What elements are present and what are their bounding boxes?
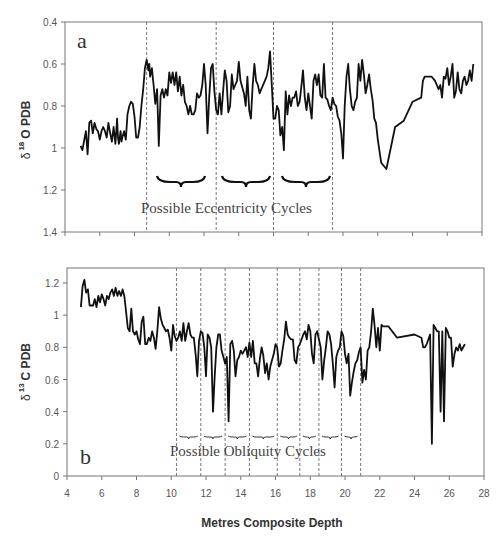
brace-icon [179, 436, 197, 439]
x-tick-label: 26 [444, 488, 456, 499]
x-tick-label: 16 [270, 488, 282, 499]
brace-icon [303, 436, 316, 439]
brace-icon [222, 176, 270, 187]
y-tick-label: 1 [53, 310, 59, 321]
panel-b-annotation: Possible Obliquity Cycles [170, 443, 326, 459]
panel-a-eccentricity-braces [157, 176, 330, 187]
figure: 0.40.60.811.21.4 a Possible Eccentricity… [0, 0, 504, 545]
panel-b-y-axis-title: δ13C PDB [17, 343, 33, 401]
x-tick-label: 14 [235, 488, 247, 499]
panel-a-annotation: Possible Eccentricity Cycles [141, 200, 312, 216]
panel-a-x-axis [65, 232, 482, 236]
y-tick-label: 0.8 [45, 342, 59, 353]
panel-b-carbon-isotope-chart: 00.20.40.60.811.2 4681012141618202224262… [17, 268, 490, 499]
x-tick-label: 24 [409, 488, 421, 499]
y-tick-label: 0.2 [45, 439, 59, 450]
brace-icon [345, 436, 358, 439]
x-axis-title: Metres Composite Depth [201, 516, 342, 530]
panel-b-x-axis: 46810121416182022242628 [64, 476, 490, 499]
y-tick-label: 0.6 [43, 59, 57, 70]
delta-symbol: δ [19, 394, 33, 401]
x-tick-label: 20 [339, 488, 351, 499]
brace-icon [282, 176, 330, 187]
y-tick-label: 0.4 [43, 17, 57, 28]
x-tick-label: 6 [99, 488, 105, 499]
y-tick-label: 0.4 [45, 407, 59, 418]
panel-b-obliquity-braces [179, 436, 357, 439]
y-tick-label: 0 [53, 471, 59, 482]
brace-icon [157, 176, 205, 187]
y-tick-label: 0.8 [43, 101, 57, 112]
y-tick-label: 1.4 [43, 227, 57, 238]
x-tick-label: 12 [200, 488, 212, 499]
panel-a-d18o-line [81, 51, 474, 169]
panel-a-y-axis-title: δ18O PDB [17, 100, 33, 159]
panel-b-y-axis: 00.20.40.60.811.2 [45, 278, 67, 482]
delta-symbol: δ [19, 152, 33, 159]
panel-b-letter: b [80, 444, 91, 469]
svg-text:δ18O PDB: δ18O PDB [17, 100, 33, 159]
brace-icon [252, 436, 274, 439]
x-tick-label: 22 [374, 488, 386, 499]
brace-icon [280, 436, 297, 439]
y-tick-label: 1.2 [45, 278, 59, 289]
svg-text:δ13C PDB: δ13C PDB [17, 343, 33, 401]
x-tick-label: 8 [134, 488, 140, 499]
brace-icon [322, 436, 339, 439]
x-tick-label: 10 [166, 488, 178, 499]
x-tick-label: 28 [478, 488, 490, 499]
panel-a-letter: a [77, 28, 87, 53]
panel-a-y-axis: 0.40.60.811.21.4 [43, 17, 65, 238]
x-tick-label: 4 [64, 488, 70, 499]
y-tick-label: 1.2 [43, 185, 57, 196]
panel-b-d13c-line [81, 280, 465, 444]
brace-icon [204, 436, 222, 439]
y-tick-label: 0.6 [45, 375, 59, 386]
y-tick-label: 1 [51, 143, 57, 154]
x-tick-label: 18 [305, 488, 317, 499]
panel-a-oxygen-isotope-chart: 0.40.60.811.21.4 a Possible Eccentricity… [17, 17, 482, 238]
brace-icon [228, 436, 246, 439]
